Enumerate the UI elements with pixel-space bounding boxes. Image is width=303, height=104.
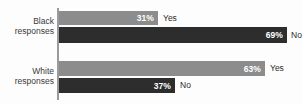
bar-black-responses-no: 69% — [59, 27, 287, 43]
group-label-white-responses: White responses — [0, 66, 54, 86]
group-label-black-line1: Black — [0, 16, 54, 26]
survey-bar-chart: Black responses 31% Yes 69% No White res… — [0, 0, 303, 104]
group-label-white-line1: White — [0, 66, 54, 76]
bar-white-responses-no: 37% — [59, 78, 175, 93]
bar-answer-label-white-no: No — [180, 80, 191, 90]
clipped-title-sliver — [150, 0, 255, 4]
bar-answer-label-white-yes: Yes — [270, 63, 284, 73]
group-label-white-line2: responses — [0, 76, 54, 86]
bar-value-black-no: 69% — [266, 30, 283, 40]
bar-answer-label-black-no: No — [291, 30, 302, 40]
bar-black-responses-yes: 31% — [59, 11, 158, 25]
bar-value-white-yes: 63% — [244, 64, 261, 74]
bar-answer-label-black-yes: Yes — [163, 13, 177, 23]
bar-value-black-yes: 31% — [137, 13, 154, 23]
clipped-title-text — [150, 0, 255, 3]
group-label-black-responses: Black responses — [0, 16, 54, 36]
group-label-black-line2: responses — [0, 26, 54, 36]
bar-white-responses-yes: 63% — [59, 61, 265, 76]
bar-value-white-no: 37% — [154, 81, 171, 91]
